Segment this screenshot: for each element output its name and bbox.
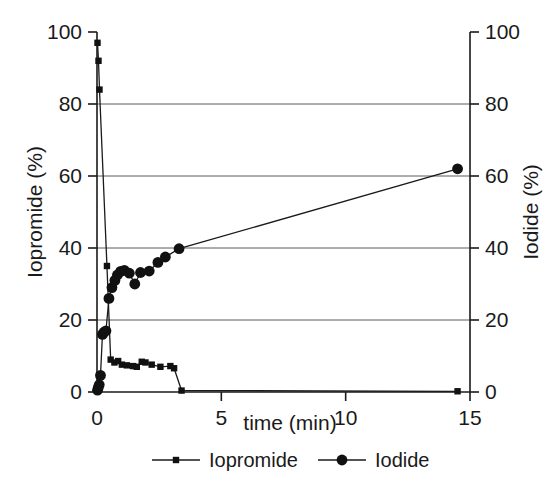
bottom-tick-label-0: 0	[91, 406, 103, 429]
marker-iopromide-2	[96, 86, 102, 92]
legend-square-icon	[173, 457, 179, 463]
left-tick-label-60: 60	[59, 164, 82, 187]
data-series-layer	[92, 40, 463, 396]
right-axis-tick-labels: 020406080100	[485, 20, 520, 403]
marker-iodide-19	[174, 243, 185, 254]
legend-label-iopromide: Iopromide	[209, 449, 298, 471]
marker-iopromide-3	[104, 263, 110, 269]
right-tick-label-40: 40	[485, 236, 508, 259]
legend-item-iopromide: Iopromide	[152, 449, 298, 471]
marker-iopromide-1	[95, 58, 101, 64]
marker-iopromide-14	[157, 364, 163, 370]
series-line-iodide	[98, 169, 458, 390]
marker-iopromide-8	[124, 362, 130, 368]
bottom-axis-title: time (min)	[243, 411, 336, 434]
chart-figure: 020406080100 020406080100 051015 Iopromi…	[0, 0, 560, 482]
left-axis-title: Iopromide (%)	[23, 146, 46, 278]
marker-iodide-18	[160, 252, 171, 263]
left-tick-label-40: 40	[59, 236, 82, 259]
bottom-tick-label-15: 15	[458, 406, 481, 429]
gridlines	[97, 104, 470, 320]
marker-iodide-13	[124, 268, 135, 279]
series-iopromide	[94, 40, 460, 395]
marker-iopromide-17	[178, 387, 184, 393]
marker-iodide-14	[129, 279, 140, 290]
marker-iodide-16	[144, 266, 155, 277]
bottom-axis-ticks	[221, 392, 470, 401]
left-axis-tick-labels: 020406080100	[47, 20, 82, 403]
left-tick-label-80: 80	[59, 92, 82, 115]
bottom-tick-label-5: 5	[215, 406, 227, 429]
marker-iopromide-12	[142, 359, 148, 365]
right-tick-label-0: 0	[485, 380, 497, 403]
marker-iodide-6	[101, 325, 112, 336]
bottom-tick-label-10: 10	[334, 406, 357, 429]
marker-iopromide-18	[454, 388, 460, 394]
marker-iodide-3	[95, 370, 106, 381]
right-tick-label-100: 100	[485, 20, 520, 43]
legend-item-iodide: Iodide	[318, 449, 430, 471]
marker-iodide-2	[94, 379, 105, 390]
marker-iopromide-13	[149, 361, 155, 367]
right-tick-label-80: 80	[485, 92, 508, 115]
left-tick-label-20: 20	[59, 308, 82, 331]
right-axis-title: Iodide (%)	[519, 164, 542, 260]
marker-iopromide-0	[94, 40, 100, 46]
marker-iopromide-16	[171, 365, 177, 371]
chart-legend: IopromideIodide	[152, 449, 430, 471]
series-line-iopromide	[98, 43, 458, 391]
left-axis-ticks	[88, 32, 97, 392]
chart-canvas: 020406080100 020406080100 051015 Iopromi…	[0, 0, 560, 482]
right-tick-label-20: 20	[485, 308, 508, 331]
left-tick-label-0: 0	[70, 380, 82, 403]
plot-frame	[97, 32, 470, 392]
right-tick-label-60: 60	[485, 164, 508, 187]
right-axis-ticks	[470, 32, 479, 392]
marker-iodide-7	[104, 293, 115, 304]
legend-circle-icon	[337, 455, 348, 466]
left-tick-label-100: 100	[47, 20, 82, 43]
marker-iodide-20	[452, 163, 463, 174]
legend-label-iodide: Iodide	[375, 449, 430, 471]
